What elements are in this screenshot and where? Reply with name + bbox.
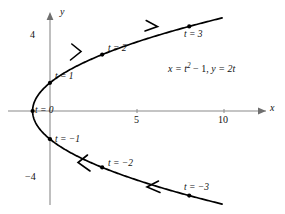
x-tick-label-10: 10: [218, 115, 228, 125]
direction-arrow-upper-1: [71, 44, 82, 60]
equation-y-lead: y = 2: [211, 63, 232, 74]
y-axis-label: y: [60, 7, 64, 17]
equation-x-lead: x =: [168, 63, 184, 74]
point-label-tm1: t = −1: [55, 135, 80, 145]
point-tm1: [48, 137, 52, 141]
point-tm2: [100, 165, 104, 169]
point-t3: [187, 24, 191, 28]
x-tick-label-5: 5: [134, 115, 139, 125]
x-axis-label: x: [270, 103, 274, 113]
point-label-t1: t = 1: [55, 72, 74, 82]
point-label-tm3: t = −3: [184, 183, 209, 193]
y-tick-label-4: 4: [30, 30, 35, 40]
equation-annotation: x = t2 − 1, y = 2t: [168, 63, 235, 74]
equation-y-var: t: [232, 63, 235, 74]
parametric-curve-figure: y x 4 −4 5 10 t = 3 t = 2 t = 1 t = 0 t …: [0, 0, 285, 214]
point-t1: [48, 81, 52, 85]
point-label-t2: t = 2: [108, 44, 127, 54]
point-tm3: [187, 194, 191, 198]
point-label-t3: t = 3: [184, 30, 203, 40]
y-tick-label-neg4: −4: [25, 172, 36, 182]
equation-x-tail: − 1,: [191, 63, 212, 74]
point-label-t0: t = 0: [35, 106, 54, 116]
direction-arrow-upper-2: [145, 21, 158, 32]
point-label-tm2: t = −2: [108, 159, 133, 169]
point-t2: [100, 53, 104, 57]
